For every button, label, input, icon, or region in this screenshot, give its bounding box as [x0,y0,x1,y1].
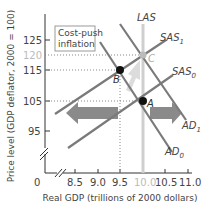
ad0-curve [100,42,172,152]
ad0-label: AD0 [164,146,185,160]
x-tick-10-5: 10.5 [155,177,177,188]
point-b-label: B [113,74,120,85]
las-label: LAS [137,12,156,23]
point-b [116,66,124,74]
y-tick-115: 115 [23,65,42,76]
x-tick-8-5: 8.5 [67,177,83,188]
x-tick-10-0: 10.0 [134,177,156,188]
x-tick-marks [75,169,188,173]
sas1-label: SAS1 [160,32,184,46]
ad1-label: AD1 [181,120,201,134]
y-tick-95: 95 [28,126,41,137]
x-tick-0: 0 [34,177,40,188]
x-axis-label: Real GDP (trillions of 2000 dollars) [43,193,198,203]
x-tick-9-5: 9.5 [112,177,128,188]
y-axis-label: Price level (GDP deflator, 2000 = 100) [6,10,16,183]
arrow-left-decrease [66,102,118,124]
point-c-label: C [148,53,155,64]
y-tick-120: 120 [23,50,42,61]
x-tick-11-0: 11.0 [179,177,201,188]
cost-push-inflation-box: Cost-push inflation [55,26,103,51]
box-line-1: Cost-push [58,28,103,38]
y-tick-105: 105 [23,96,42,107]
cost-push-inflation-diagram: A B C LAS SAS1 SAS0 AD1 AD0 Cost-push in… [0,0,208,212]
point-c [140,52,147,59]
point-a [139,97,147,105]
y-tick-125: 125 [23,35,42,46]
box-line-2: inflation [58,39,95,49]
sas0-label: SAS0 [172,66,197,80]
y-tick-marks [45,40,50,131]
x-tick-9-0: 9.0 [90,177,106,188]
point-a-label: A [146,98,154,109]
